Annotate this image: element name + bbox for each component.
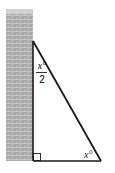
triangle [33, 41, 101, 161]
fraction-bar [36, 72, 47, 73]
bottom-angle-label: x° [84, 150, 92, 160]
top-angle-label: x° 2 [36, 60, 48, 85]
top-angle-numerator: x° [36, 60, 48, 71]
brick-wall [6, 9, 33, 161]
right-angle-marker [34, 154, 41, 161]
top-angle-denominator: 2 [36, 74, 48, 85]
diagram-canvas [0, 0, 115, 173]
ladder-line [33, 41, 101, 161]
